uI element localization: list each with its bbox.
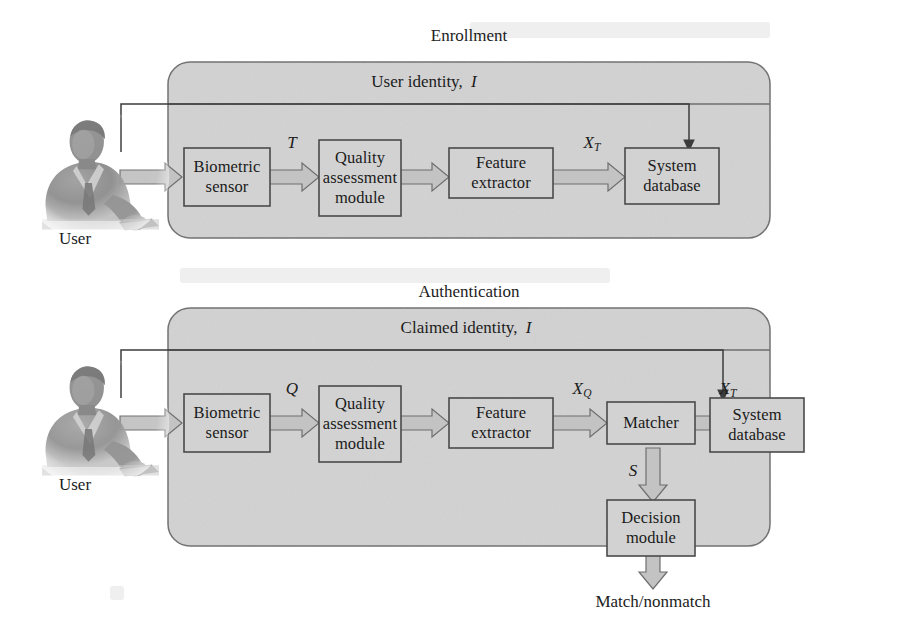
- signal-label-XT-enrollment: XT: [584, 134, 601, 154]
- signal-label-T: T: [287, 134, 296, 152]
- signal-symbol: Q: [286, 379, 298, 398]
- box-authentication-biometric-sensor[interactable]: [184, 394, 270, 452]
- signal-symbol: X: [720, 379, 730, 398]
- signal-symbol: T: [287, 133, 296, 152]
- authentication-inner-title: Claimed identity, I: [401, 319, 532, 337]
- enrollment-title: Enrollment: [431, 27, 507, 45]
- enrollment-user-caption: User: [59, 230, 91, 248]
- signal-label-XT-authentication: XT: [720, 380, 737, 400]
- authentication-user-caption: User: [59, 476, 91, 494]
- box-enrollment-feature-extractor[interactable]: [449, 148, 553, 198]
- signal-subscript: Q: [583, 387, 591, 399]
- box-enrollment-system-database[interactable]: [625, 148, 719, 204]
- enrollment-inner-title-symbol: I: [471, 72, 477, 91]
- box-authentication-quality-assessment-module[interactable]: [319, 386, 401, 462]
- signal-symbol: X: [584, 133, 594, 152]
- signal-label-Q: Q: [286, 380, 298, 398]
- box-authentication-decision-module[interactable]: [607, 500, 695, 556]
- box-authentication-matcher[interactable]: [607, 402, 695, 444]
- signal-subscript: T: [594, 141, 600, 153]
- box-authentication-feature-extractor[interactable]: [449, 398, 553, 448]
- enrollment-inner-title-text: User identity,: [371, 72, 462, 91]
- authentication-title: Authentication: [418, 283, 519, 301]
- box-enrollment-quality-assessment-module[interactable]: [319, 140, 401, 216]
- authentication-inner-title-text: Claimed identity,: [401, 318, 518, 337]
- box-enrollment-biometric-sensor[interactable]: [184, 148, 270, 206]
- signal-label-XQ: XQ: [573, 380, 592, 400]
- signal-symbol: S: [629, 461, 638, 480]
- diagram-canvas: [0, 0, 913, 622]
- signal-symbol: X: [573, 379, 583, 398]
- authentication-output-label: Match/nonmatch: [595, 593, 710, 611]
- box-authentication-system-database[interactable]: [710, 398, 804, 452]
- authentication-inner-title-symbol: I: [526, 318, 532, 337]
- biometric-system-diagram: Enrollment User identity, I Biometric se…: [0, 0, 913, 622]
- user-figure-authentication: [21, 357, 169, 488]
- signal-label-S: S: [629, 462, 638, 480]
- user-figure-enrollment: [21, 111, 169, 242]
- enrollment-inner-title: User identity, I: [371, 73, 476, 91]
- signal-subscript: T: [730, 387, 736, 399]
- arrow-decision-to-output: [639, 553, 667, 589]
